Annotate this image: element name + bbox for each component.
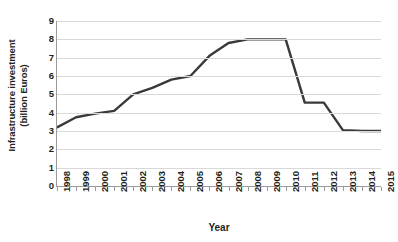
y-axis-title-line-2: (billion Euros) [17,39,29,151]
y-axis-title: Infrastructure investment (billion Euros… [0,0,34,190]
x-tick-label: 2008 [252,180,264,192]
x-tick-label: 2012 [328,180,340,192]
plot-area [57,21,381,186]
y-tick-label: 2 [40,144,54,154]
x-tick-mark [76,187,77,191]
x-tick-label: 2013 [347,180,359,192]
y-tick-label: 4 [40,108,54,118]
chart-figure: Infrastructure investment (billion Euros… [0,0,398,242]
x-tick-mark [209,187,210,191]
x-tick-label: 2006 [213,180,225,192]
x-tick-label: 2009 [271,180,283,192]
x-tick-mark [190,187,191,191]
x-tick-mark [114,187,115,191]
x-tick-label: 2014 [366,180,378,192]
y-axis-title-line-1: Infrastructure investment [6,39,18,151]
x-tick-mark [286,187,287,191]
x-tick-mark [324,187,325,191]
x-tick-label: 2010 [290,180,302,192]
x-tick-label: 2000 [99,180,111,192]
y-tick-label: 0 [40,181,54,191]
x-tick-mark [381,187,382,191]
x-tick-mark [171,187,172,191]
y-tick-label: 1 [40,163,54,173]
series-infrastructure-investment [57,21,381,186]
x-tick-mark [305,187,306,191]
y-tick-label: 5 [40,89,54,99]
x-tick-label: 1999 [80,180,92,192]
y-tick-label: 3 [40,126,54,136]
x-tick-mark [57,187,58,191]
gridline [57,58,381,59]
y-tick-label: 7 [40,53,54,63]
x-tick-label: 2011 [309,180,321,192]
x-axis-title: Year [0,222,398,233]
gridline [57,76,381,77]
x-axis-title-text: Year [168,222,229,233]
x-tick-label: 2001 [118,180,130,192]
x-tick-label: 1998 [61,180,73,192]
gridline [57,21,381,22]
y-axis-tick-labels: 0123456789 [36,0,54,242]
y-tick-label: 9 [40,16,54,26]
x-tick-label: 2007 [233,180,245,192]
x-tick-mark [95,187,96,191]
gridline [57,168,381,169]
gridline [57,94,381,95]
x-tick-label: 2004 [175,180,187,192]
gridline [57,131,381,132]
gridline [57,39,381,40]
x-tick-mark [229,187,230,191]
y-tick-label: 8 [40,34,54,44]
x-tick-mark [133,187,134,191]
x-tick-mark [152,187,153,191]
x-tick-mark [267,187,268,191]
y-tick-label: 6 [40,71,54,81]
x-tick-mark [362,187,363,191]
gridline [57,113,381,114]
x-tick-label: 2002 [137,180,149,192]
x-tick-mark [248,187,249,191]
x-tick-label: 2015 [385,180,397,192]
x-tick-label: 2005 [194,180,206,192]
x-tick-label: 2003 [156,180,168,192]
gridline [57,149,381,150]
x-tick-mark [343,187,344,191]
